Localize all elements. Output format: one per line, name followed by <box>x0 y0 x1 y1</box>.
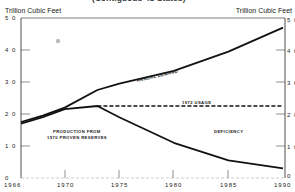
series-layer <box>21 28 283 169</box>
annual-demand-label: ANNUAL DEMAND <box>136 69 178 83</box>
left-y-ticks <box>21 50 30 146</box>
x-ticks <box>65 170 228 178</box>
y-label-0-right: 0 <box>287 173 291 179</box>
y-label-30-right: 3 0 <box>287 80 295 86</box>
y-label-10-right: 1 0 <box>287 144 295 150</box>
x-label-1985: 1985 <box>220 182 237 188</box>
x-label-1970: 1970 <box>57 182 74 188</box>
usage-1972-label: 1972 USAGE <box>182 100 211 105</box>
y-label-50-left: 5 0 <box>5 15 16 21</box>
y-label-0-left: 0 <box>5 175 9 181</box>
x-label-1975: 1975 <box>111 182 128 188</box>
right-y-ticks <box>276 50 285 146</box>
x-label-1990: 1990 <box>274 182 291 188</box>
y-label-10-left: 1 0 <box>5 143 16 149</box>
y-label-50-right: 5 0 <box>287 17 295 23</box>
scan-artifact-dot <box>56 39 60 43</box>
y-label-30-left: 3 0 <box>5 79 16 85</box>
y-label-20-left: 2 0 <box>5 111 16 117</box>
y-label-40-right: 4 0 <box>287 48 295 54</box>
deficiency-label: DEFICIENCY <box>214 129 243 134</box>
chart-plot: 5 0 4 0 3 0 2 0 1 0 0 5 0 4 0 3 0 2 0 1 … <box>0 0 295 192</box>
y-label-40-left: 4 0 <box>5 47 16 53</box>
production-label-line2: 1970 PROVEN RESERVES <box>47 135 107 140</box>
x-label-1966: 1966 <box>4 182 21 188</box>
production-label-line1: PRODUCTION FROM <box>53 129 101 134</box>
x-label-1980: 1980 <box>165 182 182 188</box>
y-label-20-right: 2 0 <box>287 112 295 118</box>
